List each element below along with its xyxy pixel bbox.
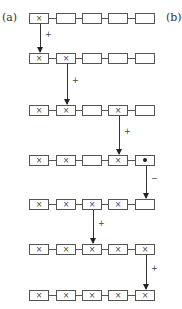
cell-box xyxy=(108,13,128,24)
cell-box: × xyxy=(108,244,128,255)
cell-box xyxy=(82,13,102,24)
cell-box xyxy=(135,53,155,64)
chain-link xyxy=(49,160,56,161)
cell-box: × xyxy=(135,244,155,255)
dot-marker-icon xyxy=(143,158,147,162)
chain-link xyxy=(49,295,56,296)
cell-box: × xyxy=(29,155,49,166)
cell-box xyxy=(82,105,102,116)
cell-box: × xyxy=(56,53,76,64)
cell-box xyxy=(82,155,102,166)
cross-mark-icon: × xyxy=(142,245,149,254)
chain-row-7: ××××× xyxy=(29,290,154,300)
cell-box: × xyxy=(82,199,102,210)
transition-arrow-icon xyxy=(146,166,147,198)
cell-box: × xyxy=(108,290,128,301)
cell-box: × xyxy=(56,105,76,116)
cross-mark-icon: × xyxy=(36,54,43,63)
cross-mark-icon: × xyxy=(36,106,43,115)
chain-link xyxy=(49,249,56,250)
chain-link xyxy=(49,204,56,205)
chain-link xyxy=(49,110,56,111)
cross-mark-icon: × xyxy=(36,291,43,300)
cell-box xyxy=(56,13,76,24)
cross-mark-icon: × xyxy=(36,156,43,165)
transition-sign: − xyxy=(151,174,158,183)
cross-mark-icon: × xyxy=(115,156,122,165)
cell-box: × xyxy=(56,244,76,255)
transition-arrow-icon xyxy=(67,64,68,104)
cross-mark-icon: × xyxy=(89,245,96,254)
cell-box xyxy=(135,105,155,116)
chain-row-6: ××××× xyxy=(29,244,154,254)
panel-label-a: (a) xyxy=(2,11,17,24)
cell-box: × xyxy=(56,290,76,301)
cross-mark-icon: × xyxy=(142,291,149,300)
cell-box: × xyxy=(82,244,102,255)
cross-mark-icon: × xyxy=(63,245,70,254)
chain-row-3: ××× xyxy=(29,105,154,115)
cross-mark-icon: × xyxy=(63,200,70,209)
cell-box: × xyxy=(29,199,49,210)
cross-mark-icon: × xyxy=(89,291,96,300)
chain-link xyxy=(128,295,135,296)
chain-row-1: × xyxy=(29,13,154,23)
cell-box xyxy=(135,13,155,24)
transition-arrow-icon xyxy=(119,116,120,154)
cell-box xyxy=(82,53,102,64)
chain-link xyxy=(128,204,135,205)
transition-sign: + xyxy=(45,30,52,39)
cell-box: × xyxy=(56,199,76,210)
cell-box xyxy=(108,53,128,64)
transition-sign: + xyxy=(98,219,105,228)
cell-box: × xyxy=(135,290,155,301)
cell-box: × xyxy=(56,155,76,166)
cell-box xyxy=(135,199,155,210)
chain-row-4: ××× xyxy=(29,155,154,165)
cell-box: × xyxy=(82,290,102,301)
transition-sign: + xyxy=(151,264,158,273)
cross-mark-icon: × xyxy=(63,106,70,115)
cross-mark-icon: × xyxy=(36,14,43,23)
cell-box: × xyxy=(29,244,49,255)
cross-mark-icon: × xyxy=(115,245,122,254)
cross-mark-icon: × xyxy=(115,200,122,209)
cell-box: × xyxy=(29,13,49,24)
cross-mark-icon: × xyxy=(36,245,43,254)
chain-link xyxy=(49,18,56,19)
chain-link xyxy=(128,58,135,59)
transition-sign: + xyxy=(124,127,131,136)
cell-box: × xyxy=(29,53,49,64)
panel-label-b: (b) xyxy=(166,11,182,24)
chain-link xyxy=(128,18,135,19)
cross-mark-icon: × xyxy=(115,291,122,300)
chain-link xyxy=(49,58,56,59)
cross-mark-icon: × xyxy=(36,200,43,209)
chain-link xyxy=(128,249,135,250)
chain-row-2: ×× xyxy=(29,53,154,63)
chain-row-5: ×××× xyxy=(29,199,154,209)
cross-mark-icon: × xyxy=(63,54,70,63)
cell-box xyxy=(135,155,155,166)
transition-arrow-icon xyxy=(40,24,41,52)
chain-link xyxy=(128,160,135,161)
chain-link xyxy=(128,110,135,111)
cell-box: × xyxy=(108,105,128,116)
transition-arrow-icon xyxy=(146,255,147,289)
cross-mark-icon: × xyxy=(115,106,122,115)
cell-box: × xyxy=(29,290,49,301)
cell-box: × xyxy=(29,105,49,116)
cell-box: × xyxy=(108,155,128,166)
cross-mark-icon: × xyxy=(63,291,70,300)
cross-mark-icon: × xyxy=(63,156,70,165)
cross-mark-icon: × xyxy=(89,200,96,209)
transition-sign: + xyxy=(72,76,79,85)
cell-box: × xyxy=(108,199,128,210)
transition-arrow-icon xyxy=(93,210,94,243)
